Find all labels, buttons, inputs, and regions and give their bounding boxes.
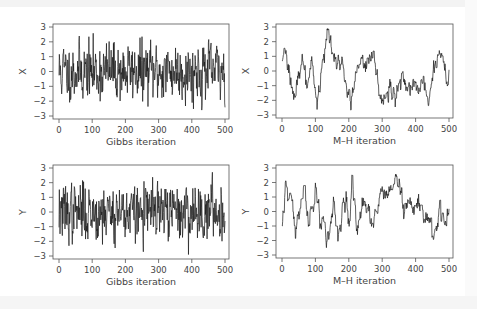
x-tick-label: 500	[217, 265, 233, 275]
trace-line-y	[59, 172, 225, 254]
y-tick-label: −1	[256, 221, 269, 231]
y-tick-label: 2	[264, 178, 269, 188]
x-tick-label: 400	[184, 125, 200, 135]
x-tick-label: 400	[184, 265, 200, 275]
y-tick-label: −3	[256, 110, 269, 120]
plot-frame	[276, 24, 453, 118]
y-tick-label: 1	[264, 51, 269, 61]
y-tick-label: 2	[264, 37, 269, 47]
trace-line-x	[282, 28, 449, 110]
x-tick-label: 100	[307, 124, 323, 134]
y-tick-label: 2	[41, 178, 46, 188]
y-tick-label: −1	[33, 81, 46, 91]
x-axis-label: M–H iteration	[333, 275, 396, 286]
x-axis-label: M–H iteration	[333, 135, 396, 146]
x-axis-label: Gibbs iteration	[106, 136, 176, 147]
y-axis-label: X	[240, 67, 251, 74]
y-tick-label: 0	[264, 66, 269, 76]
x-tick-label: 500	[441, 264, 457, 274]
y-tick-label: −1	[33, 222, 46, 232]
y-tick-label: −2	[33, 236, 46, 246]
y-tick-label: 3	[41, 22, 46, 32]
x-tick-label: 400	[407, 264, 423, 274]
y-tick-label: 0	[264, 207, 269, 217]
x-tick-label: 200	[341, 264, 357, 274]
x-tick-label: 300	[374, 264, 390, 274]
y-tick-label: −2	[256, 95, 269, 105]
y-tick-label: 1	[264, 192, 269, 202]
x-tick-label: 500	[441, 124, 457, 134]
x-axis-label: Gibbs iteration	[106, 276, 176, 287]
y-tick-label: 1	[41, 192, 46, 202]
x-tick-label: 0	[56, 265, 61, 275]
y-axis-label: X	[17, 68, 28, 75]
y-tick-label: 2	[41, 37, 46, 47]
x-tick-label: 500	[217, 125, 233, 135]
x-tick-label: 300	[374, 124, 390, 134]
x-tick-label: 0	[279, 264, 284, 274]
y-tick-label: −3	[33, 111, 46, 121]
x-tick-label: 100	[84, 265, 100, 275]
plot-panel-top-left: 3210−1−2−30100200300400500Gibbs iteratio…	[17, 22, 233, 147]
x-tick-label: 100	[84, 125, 100, 135]
y-tick-label: −1	[256, 81, 269, 91]
plot-frame	[276, 165, 453, 258]
x-tick-label: 200	[341, 124, 357, 134]
x-tick-label: 200	[117, 125, 133, 135]
plot-panel-top-right: 3210−1−2−30100200300400500M–H iterationX	[240, 22, 457, 146]
x-tick-label: 0	[56, 125, 61, 135]
trace-line-x	[59, 33, 225, 110]
x-tick-label: 100	[307, 264, 323, 274]
y-tick-label: 0	[41, 67, 46, 77]
y-tick-label: 3	[264, 163, 269, 173]
trace-line-y	[282, 174, 449, 247]
y-tick-label: 0	[41, 207, 46, 217]
y-tick-label: −2	[33, 96, 46, 106]
x-tick-label: 0	[279, 124, 284, 134]
y-tick-label: 1	[41, 52, 46, 62]
plot-panel-bottom-left: 3210−1−2−30100200300400500Gibbs iteratio…	[17, 163, 233, 287]
y-axis-label: Y	[17, 209, 28, 216]
y-axis-label: Y	[240, 208, 251, 215]
y-tick-label: 3	[264, 22, 269, 32]
y-tick-label: −3	[33, 251, 46, 261]
plot-panel-bottom-right: 3210−1−2−30100200300400500M–H iterationY	[240, 163, 457, 286]
x-tick-label: 300	[150, 265, 166, 275]
y-tick-label: −2	[256, 236, 269, 246]
x-tick-label: 300	[150, 125, 166, 135]
trace-plots-figure: 3210−1−2−30100200300400500Gibbs iteratio…	[0, 0, 477, 309]
x-tick-label: 200	[117, 265, 133, 275]
x-tick-label: 400	[407, 124, 423, 134]
y-tick-label: 3	[41, 163, 46, 173]
y-tick-label: −3	[256, 250, 269, 260]
